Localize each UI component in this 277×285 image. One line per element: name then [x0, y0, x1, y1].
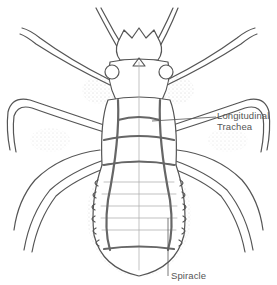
longitudinal-trachea-label: Longitudinal Trachea: [217, 110, 269, 132]
insect-illustration: [0, 0, 277, 285]
insect-tracheal-diagram: [0, 0, 277, 285]
longitudinal-trachea-label-line2: Trachea: [217, 121, 269, 132]
spiracle-label: Spiracle: [171, 270, 206, 281]
longitudinal-trachea-label-line1: Longitudinal: [217, 110, 269, 121]
